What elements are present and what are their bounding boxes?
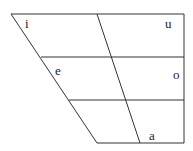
vowel-i: i xyxy=(25,16,29,31)
chart-outline xyxy=(11,14,184,143)
vowel-a: a xyxy=(149,128,155,143)
vowel-chart: i u e o a xyxy=(0,0,193,151)
central-divider-line xyxy=(97,14,140,143)
vowel-e: e xyxy=(55,63,61,78)
vowel-o: o xyxy=(173,67,180,82)
vowel-u: u xyxy=(165,16,172,31)
